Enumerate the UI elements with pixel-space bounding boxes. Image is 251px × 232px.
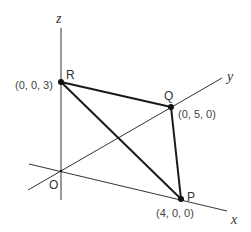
triangle-diagram: z y x O R Q P (0, 0, 3) (0, 5, 0) (4, 0,… bbox=[0, 0, 251, 232]
point-q-name: Q bbox=[164, 89, 173, 103]
point-r-coords: (0, 0, 3) bbox=[15, 79, 53, 91]
edge-rp bbox=[61, 82, 181, 199]
y-axis-label: y bbox=[225, 69, 234, 84]
origin-label: O bbox=[49, 178, 58, 192]
x-axis bbox=[29, 164, 227, 211]
point-p bbox=[178, 196, 184, 202]
x-axis-label: x bbox=[230, 212, 238, 227]
y-axis bbox=[28, 78, 222, 190]
edge-rq bbox=[61, 82, 171, 107]
origin-point bbox=[60, 170, 62, 172]
point-q bbox=[168, 104, 174, 110]
point-r bbox=[58, 79, 64, 85]
point-p-coords: (4, 0, 0) bbox=[156, 207, 194, 219]
point-r-name: R bbox=[66, 68, 75, 82]
z-axis-label: z bbox=[55, 11, 62, 26]
point-p-name: P bbox=[187, 190, 195, 204]
edge-qp bbox=[171, 107, 181, 199]
diagram-canvas: z y x O R Q P (0, 0, 3) (0, 5, 0) (4, 0,… bbox=[0, 0, 251, 232]
point-q-coords: (0, 5, 0) bbox=[178, 108, 216, 120]
